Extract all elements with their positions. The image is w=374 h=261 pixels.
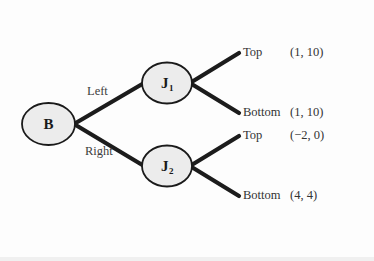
node-label-lower: J2 bbox=[161, 159, 173, 174]
action-label-lower-top: Top bbox=[243, 129, 262, 142]
action-label-upper-top: Top bbox=[243, 46, 262, 59]
node-label-lower-text: J bbox=[161, 158, 169, 174]
node-label-root-text: B bbox=[43, 116, 53, 132]
payoff-upper-bottom: (1, 10) bbox=[290, 106, 323, 119]
payoff-lower-bottom: (4, 4) bbox=[290, 189, 317, 202]
node-label-upper: J1 bbox=[161, 76, 173, 91]
branch-upper-top bbox=[190, 53, 239, 83]
node-label-upper-subscript: 1 bbox=[169, 83, 174, 93]
action-label-upper-bottom: Bottom bbox=[243, 106, 281, 119]
node-label-upper-text: J bbox=[161, 75, 169, 91]
node-label-root: B bbox=[43, 117, 53, 132]
game-tree-diagram: B J1 J2 Left Right Top Bottom Top Bottom… bbox=[0, 0, 374, 261]
edge-label-left: Left bbox=[87, 85, 108, 98]
action-label-lower-bottom: Bottom bbox=[243, 189, 281, 202]
branch-root-to-upper bbox=[74, 83, 144, 124]
payoff-lower-top: (−2, 0) bbox=[290, 129, 324, 142]
payoff-upper-top: (1, 10) bbox=[290, 46, 323, 59]
node-label-lower-subscript: 2 bbox=[169, 166, 174, 176]
branch-lower-bottom bbox=[190, 166, 239, 196]
bottom-edge-strip bbox=[0, 257, 374, 261]
edge-label-right: Right bbox=[85, 145, 113, 158]
branch-lower-top bbox=[190, 136, 239, 166]
branch-upper-bottom bbox=[190, 83, 239, 113]
